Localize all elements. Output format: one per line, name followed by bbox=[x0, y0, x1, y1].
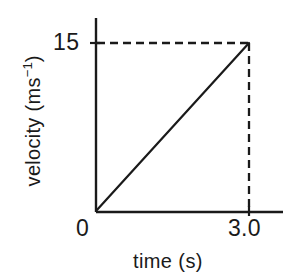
x-tick-label-3-0: 3.0 bbox=[228, 217, 261, 240]
x-axis-title: time (s) bbox=[133, 251, 203, 271]
x-tick-label-0: 0 bbox=[76, 217, 89, 240]
y-tick-label-15: 15 bbox=[53, 31, 80, 54]
velocity-time-graph-figure: 15 0 3.0 time (s) velocity (ms−1) bbox=[0, 0, 294, 277]
velocity-data-line bbox=[96, 43, 249, 211]
